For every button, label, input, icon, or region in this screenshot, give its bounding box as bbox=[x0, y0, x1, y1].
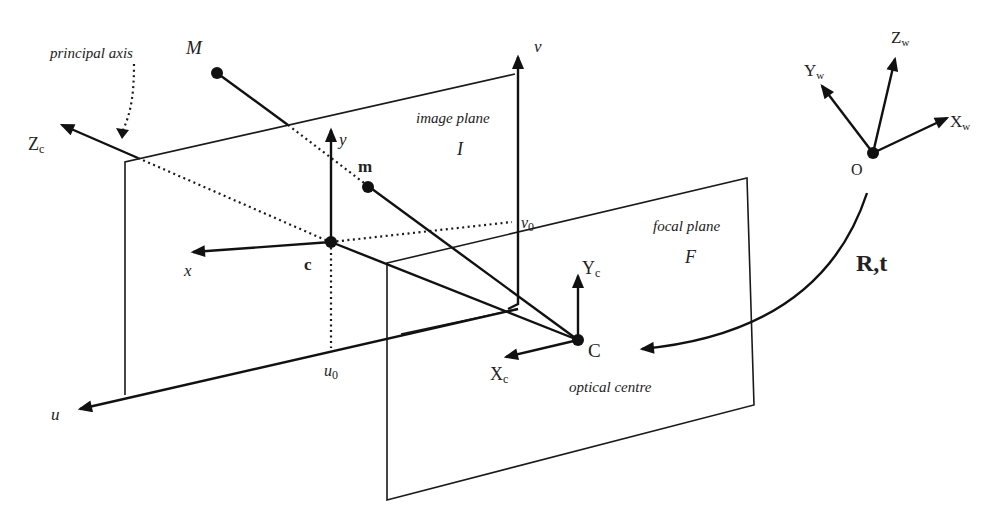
camera-model-diagram: principal axis M m c C O image plane I f… bbox=[0, 0, 1007, 528]
y-axis-label: y bbox=[337, 130, 347, 149]
point-c bbox=[325, 236, 337, 248]
principal-axis-label: principal axis bbox=[49, 45, 133, 61]
zw-axis-arrow bbox=[873, 59, 895, 153]
x-axis-arrow bbox=[193, 242, 331, 252]
m-label: m bbox=[358, 157, 372, 176]
ray-m-hidden bbox=[288, 125, 368, 186]
u-axis-arrow bbox=[80, 309, 518, 409]
focal-plane-symbol: F bbox=[684, 247, 697, 267]
ray-m-to-c bbox=[368, 186, 578, 340]
v-axis-label: v bbox=[534, 37, 542, 56]
rt-transform-label: R,t bbox=[856, 250, 887, 276]
xc-axis-arrow bbox=[506, 340, 578, 357]
yw-axis-arrow bbox=[822, 86, 873, 153]
yw-label: Yw bbox=[804, 61, 824, 81]
point-C bbox=[572, 334, 584, 346]
principal-axis-dotted bbox=[138, 158, 330, 242]
callout-arrowhead-icon bbox=[116, 128, 129, 139]
u-axis-label: u bbox=[51, 405, 60, 424]
zc-label: Zc bbox=[28, 134, 44, 156]
u0-label: u0 bbox=[324, 362, 338, 382]
xw-label: Xw bbox=[950, 112, 970, 132]
xw-axis-arrow bbox=[873, 118, 947, 153]
ray-m-solid-top bbox=[217, 73, 288, 125]
M-label: M bbox=[185, 37, 203, 58]
focal-plane-label: focal plane bbox=[653, 218, 720, 234]
optical-centre-label: optical centre bbox=[569, 379, 652, 395]
image-plane-label: image plane bbox=[416, 110, 490, 126]
image-plane-symbol: I bbox=[456, 139, 464, 159]
principal-ray-c-to-C bbox=[331, 242, 578, 340]
point-m bbox=[362, 181, 374, 193]
x-axis-label: x bbox=[183, 261, 192, 280]
rt-transform-arrow bbox=[642, 193, 867, 349]
principal-axis-callout-arrow bbox=[122, 64, 134, 132]
yc-label: Yc bbox=[582, 258, 600, 280]
zw-label: Zw bbox=[891, 28, 909, 48]
point-M bbox=[211, 67, 223, 79]
v-axis-arrow bbox=[508, 57, 518, 309]
c-label: c bbox=[304, 255, 312, 274]
point-O bbox=[867, 147, 879, 159]
O-label: O bbox=[851, 161, 863, 178]
xc-label: Xc bbox=[490, 364, 508, 386]
C-label: C bbox=[588, 340, 601, 361]
